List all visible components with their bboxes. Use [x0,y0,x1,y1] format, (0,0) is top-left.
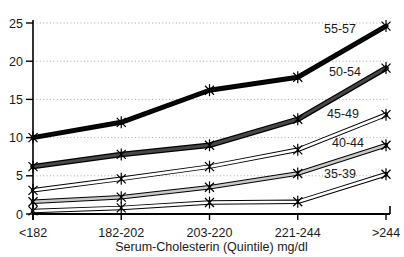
y-tick-label: 5 [16,169,23,183]
series-line-outline-55-57 [33,26,386,138]
series-label-45-49: 45-49 [327,107,359,121]
y-tick-label: 25 [9,17,23,31]
x-tick-label: <182 [19,226,47,240]
series-label-55-57: 55-57 [324,22,356,36]
y-tick-label: 0 [16,208,23,222]
y-tick-label: 15 [9,93,23,107]
x-tick-label: 203-220 [187,226,233,240]
series-label-35-39: 35-39 [324,167,356,181]
x-axis-title: Serum-Cholesterin (Quintile) mg/dl [115,240,307,254]
series-label-50-54: 50-54 [329,65,361,79]
series-label-40-44: 40-44 [332,136,364,150]
chart-page: 0510152025<182182-202203-220221-244>244S… [0,0,404,257]
cholesterol-by-age-line-chart: 0510152025<182182-202203-220221-244>244S… [0,0,404,257]
x-tick-label: 182-202 [98,226,144,240]
y-tick-label: 20 [9,55,23,69]
x-tick-label: >244 [372,226,400,240]
y-tick-label: 10 [9,131,23,145]
series-line-core-55-57 [33,26,386,138]
x-tick-label: 221-244 [275,226,321,240]
